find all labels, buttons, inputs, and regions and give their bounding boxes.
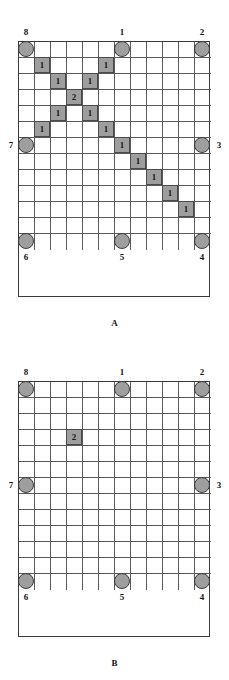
shaded-cell[interactable]: 1 xyxy=(50,105,66,121)
grid-cell[interactable] xyxy=(179,42,195,58)
grid-cell[interactable] xyxy=(163,478,179,494)
grid-cell[interactable] xyxy=(179,138,195,154)
grid-cell[interactable] xyxy=(83,430,99,446)
grid-cell[interactable] xyxy=(115,186,131,202)
grid-cell[interactable] xyxy=(195,510,211,526)
grid-cell[interactable] xyxy=(147,106,163,122)
grid-cell[interactable] xyxy=(179,526,195,542)
grid-cell[interactable] xyxy=(67,462,83,478)
grid-cell[interactable] xyxy=(115,526,131,542)
grid-cell[interactable] xyxy=(67,154,83,170)
grid-cell[interactable] xyxy=(83,234,99,250)
grid-cell[interactable] xyxy=(195,106,211,122)
grid-cell[interactable] xyxy=(99,558,115,574)
grid-cell[interactable] xyxy=(147,574,163,590)
grid-cell[interactable] xyxy=(147,414,163,430)
grid-cell[interactable] xyxy=(51,510,67,526)
grid-cell[interactable] xyxy=(163,414,179,430)
grid-cell[interactable] xyxy=(51,494,67,510)
grid-cell[interactable] xyxy=(99,446,115,462)
grid-cell[interactable] xyxy=(83,170,99,186)
grid-cell[interactable] xyxy=(67,74,83,90)
grid-cell[interactable] xyxy=(147,122,163,138)
grid-cell[interactable] xyxy=(115,414,131,430)
grid-cell[interactable] xyxy=(51,218,67,234)
grid-cell[interactable] xyxy=(147,398,163,414)
grid-cell[interactable] xyxy=(163,526,179,542)
grid-cell[interactable] xyxy=(35,398,51,414)
grid-cell[interactable] xyxy=(83,398,99,414)
grid-cell[interactable] xyxy=(179,218,195,234)
grid-cell[interactable] xyxy=(99,574,115,590)
grid-cell[interactable] xyxy=(163,154,179,170)
grid-cell[interactable] xyxy=(131,170,147,186)
grid-cell[interactable] xyxy=(147,542,163,558)
grid-cell[interactable] xyxy=(83,462,99,478)
node-circle-2[interactable] xyxy=(194,381,210,397)
grid-cell[interactable] xyxy=(67,106,83,122)
grid-cell[interactable] xyxy=(131,106,147,122)
grid-cell[interactable] xyxy=(163,58,179,74)
grid-cell[interactable] xyxy=(19,154,35,170)
grid-cell[interactable] xyxy=(179,430,195,446)
grid-cell[interactable] xyxy=(195,154,211,170)
grid-cell[interactable] xyxy=(67,446,83,462)
grid-cell[interactable] xyxy=(99,138,115,154)
grid-cell[interactable] xyxy=(51,558,67,574)
grid-cell[interactable] xyxy=(179,154,195,170)
grid-cell[interactable] xyxy=(147,478,163,494)
grid-cell[interactable] xyxy=(179,478,195,494)
grid-cell[interactable] xyxy=(67,398,83,414)
shaded-cell[interactable]: 1 xyxy=(50,73,66,89)
grid-cell[interactable] xyxy=(99,462,115,478)
grid-cell[interactable] xyxy=(131,138,147,154)
grid-cell[interactable] xyxy=(131,202,147,218)
grid-cell[interactable] xyxy=(131,58,147,74)
grid-cell[interactable] xyxy=(195,202,211,218)
grid-cell[interactable] xyxy=(115,462,131,478)
shaded-cell[interactable]: 1 xyxy=(98,57,114,73)
grid-cell[interactable] xyxy=(35,42,51,58)
grid-cell[interactable] xyxy=(131,558,147,574)
grid-cell[interactable] xyxy=(35,382,51,398)
node-circle-5[interactable] xyxy=(114,233,130,249)
grid-cell[interactable] xyxy=(83,542,99,558)
grid-cell[interactable] xyxy=(99,170,115,186)
grid-cell[interactable] xyxy=(147,58,163,74)
grid-cell[interactable] xyxy=(163,106,179,122)
grid-cell[interactable] xyxy=(131,122,147,138)
grid-cell[interactable] xyxy=(83,202,99,218)
grid-cell[interactable] xyxy=(19,446,35,462)
grid-cell[interactable] xyxy=(163,430,179,446)
grid-cell[interactable] xyxy=(99,106,115,122)
grid-cell[interactable] xyxy=(51,58,67,74)
grid-cell[interactable] xyxy=(67,414,83,430)
grid-cell[interactable] xyxy=(115,122,131,138)
grid-cell[interactable] xyxy=(35,106,51,122)
grid-cell[interactable] xyxy=(147,42,163,58)
grid-cell[interactable] xyxy=(179,414,195,430)
grid-cell[interactable] xyxy=(35,186,51,202)
grid-cell[interactable] xyxy=(35,138,51,154)
grid-cell[interactable] xyxy=(19,90,35,106)
grid-cell[interactable] xyxy=(147,218,163,234)
grid-cell[interactable] xyxy=(115,398,131,414)
grid-cell[interactable] xyxy=(147,446,163,462)
grid-cell[interactable] xyxy=(67,122,83,138)
grid-cell[interactable] xyxy=(99,74,115,90)
grid-cell[interactable] xyxy=(131,446,147,462)
grid-cell[interactable] xyxy=(67,542,83,558)
grid-cell[interactable] xyxy=(163,558,179,574)
grid-cell[interactable] xyxy=(19,494,35,510)
grid-cell[interactable] xyxy=(83,382,99,398)
grid-cell[interactable] xyxy=(147,430,163,446)
grid-cell[interactable] xyxy=(51,202,67,218)
grid-cell[interactable] xyxy=(179,446,195,462)
grid-cell[interactable] xyxy=(19,526,35,542)
grid-cell[interactable] xyxy=(35,74,51,90)
grid-cell[interactable] xyxy=(35,510,51,526)
shaded-cell[interactable]: 1 xyxy=(34,121,50,137)
node-circle-4[interactable] xyxy=(194,573,210,589)
grid-cell[interactable] xyxy=(131,494,147,510)
grid-cell[interactable] xyxy=(131,218,147,234)
